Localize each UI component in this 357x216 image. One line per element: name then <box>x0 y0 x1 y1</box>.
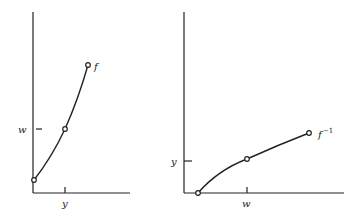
f-point-2 <box>63 127 68 132</box>
diagram-canvas: f w y f −1 y w <box>0 0 357 216</box>
left-plot <box>32 12 130 193</box>
right-x-tick-label: w <box>242 198 251 209</box>
right-y-tick-label: y <box>170 156 177 167</box>
f-point-3 <box>86 63 91 68</box>
right-curve-label-superscript: −1 <box>323 127 333 135</box>
f-inverse-curve <box>198 133 309 193</box>
f-curve <box>34 65 88 180</box>
f-inverse-point-1 <box>196 191 201 196</box>
f-inverse-point-3 <box>307 131 312 136</box>
f-point-1 <box>32 178 37 183</box>
right-plot <box>184 12 344 195</box>
left-y-tick-label: w <box>18 124 27 135</box>
f-inverse-point-2 <box>245 157 250 162</box>
left-x-tick-label: y <box>61 198 68 209</box>
left-curve-label: f <box>93 61 100 72</box>
